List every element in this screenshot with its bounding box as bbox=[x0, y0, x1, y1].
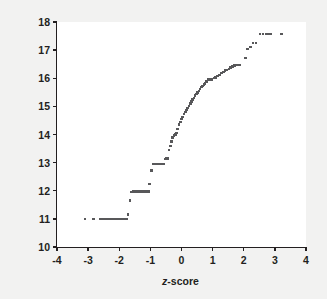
scatter-point bbox=[170, 140, 173, 142]
y-axis-tick-label: 13 bbox=[38, 157, 50, 169]
scatter-point bbox=[280, 33, 283, 35]
scatter-point bbox=[244, 57, 247, 59]
x-axis-tick-mark bbox=[305, 247, 306, 251]
y-axis-tick-label: 15 bbox=[38, 100, 50, 112]
x-axis-tick-mark bbox=[243, 247, 244, 251]
y-axis-tick-mark bbox=[53, 21, 57, 22]
x-axis-tick-label: -1 bbox=[146, 254, 155, 266]
scatter-point bbox=[148, 183, 151, 185]
scatter-point bbox=[184, 111, 187, 113]
x-axis-tick-label: 1 bbox=[210, 254, 216, 266]
y-axis-tick-label: 14 bbox=[38, 129, 50, 141]
y-axis-tick-label: 10 bbox=[38, 241, 50, 253]
scatter-point bbox=[175, 132, 178, 134]
x-axis-tick-mark bbox=[119, 247, 120, 251]
x-axis-title-rest: -score bbox=[167, 275, 199, 287]
y-axis-tick-label: 11 bbox=[39, 213, 50, 225]
y-axis-tick-label: 12 bbox=[38, 185, 50, 197]
scatter-point bbox=[92, 218, 95, 220]
scatter-point bbox=[178, 123, 181, 125]
scatter-point bbox=[150, 169, 153, 171]
scatter-point bbox=[188, 105, 191, 107]
scatter-point bbox=[129, 199, 132, 201]
y-axis-tick-mark bbox=[53, 134, 57, 135]
scatter-point bbox=[189, 102, 192, 104]
scatter-point bbox=[84, 218, 87, 220]
y-axis-tick-mark bbox=[53, 78, 57, 79]
scatter-point bbox=[169, 145, 172, 147]
x-axis-tick-label: 4 bbox=[303, 254, 309, 266]
x-axis-tick-label: 0 bbox=[179, 254, 185, 266]
x-axis-tick-mark bbox=[87, 247, 88, 251]
y-axis-tick-mark bbox=[53, 49, 57, 50]
y-axis-tick-mark bbox=[53, 106, 57, 107]
scatter-point bbox=[179, 121, 182, 123]
y-axis-tick-mark bbox=[53, 190, 57, 191]
x-axis-tick-mark bbox=[181, 247, 182, 251]
y-axis-tick-label: 16 bbox=[38, 72, 50, 84]
scatter-point bbox=[270, 33, 273, 35]
scatter-points-layer bbox=[57, 22, 306, 247]
figure-container: 101112131415161718-4-3-2-101234 z-score … bbox=[0, 0, 327, 299]
x-axis-tick-label: 2 bbox=[241, 254, 247, 266]
y-axis-tick-label: 18 bbox=[38, 16, 50, 28]
scatter-point bbox=[167, 157, 170, 159]
scatter-point bbox=[147, 190, 150, 192]
scatter-point bbox=[255, 42, 258, 44]
x-axis-tick-mark bbox=[212, 247, 213, 251]
scatter-point bbox=[181, 116, 184, 118]
scatter-point bbox=[127, 213, 130, 215]
scatter-point bbox=[163, 163, 166, 165]
y-axis-tick-mark bbox=[53, 162, 57, 163]
x-axis-title: z-score bbox=[56, 275, 305, 287]
scatter-point bbox=[239, 64, 242, 66]
x-axis-tick-label: -2 bbox=[115, 254, 124, 266]
x-axis-tick-mark bbox=[274, 247, 275, 251]
plot-area: 101112131415161718-4-3-2-101234 bbox=[56, 22, 306, 248]
scatter-point bbox=[176, 128, 179, 130]
y-axis-tick-mark bbox=[53, 218, 57, 219]
x-axis-tick-label: 3 bbox=[272, 254, 278, 266]
x-axis-tick-mark bbox=[150, 247, 151, 251]
scatter-point bbox=[125, 218, 128, 220]
y-axis-tick-label: 17 bbox=[38, 44, 50, 56]
x-axis-tick-mark bbox=[56, 247, 57, 251]
x-axis-tick-label: -4 bbox=[52, 254, 61, 266]
scatter-point bbox=[249, 46, 252, 48]
x-axis-tick-label: -3 bbox=[83, 254, 92, 266]
scatter-point bbox=[193, 97, 196, 99]
scatter-point bbox=[183, 113, 186, 115]
scatter-point bbox=[168, 149, 171, 151]
